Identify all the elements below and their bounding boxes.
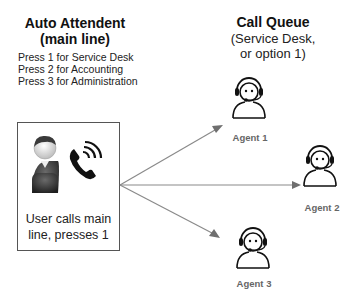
agent-2-label: Agent 2 xyxy=(297,202,347,213)
agent-icons xyxy=(0,0,354,308)
agent-1-icon xyxy=(233,78,265,118)
agent-3-icon xyxy=(237,228,269,268)
agent-3-label: Agent 3 xyxy=(229,278,279,289)
agent-1-label: Agent 1 xyxy=(225,132,275,143)
agent-2-icon xyxy=(304,146,336,186)
